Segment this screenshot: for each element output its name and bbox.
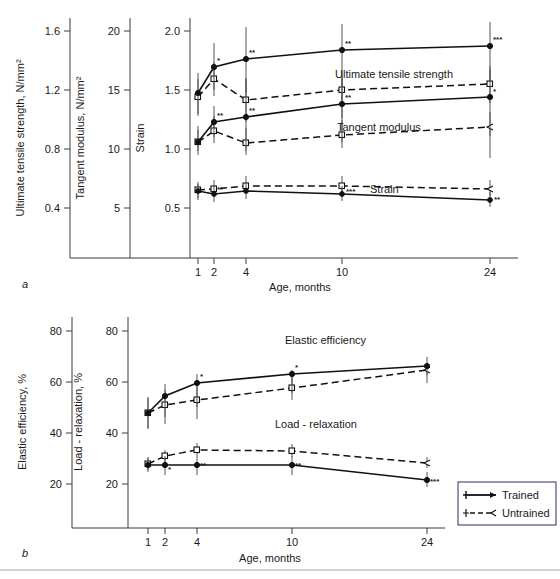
significance-marker: ** — [295, 461, 302, 470]
data-point — [289, 448, 295, 454]
xtick-label: 2 — [211, 266, 217, 278]
ytick-label: 1.5 — [165, 84, 180, 96]
ytick-label: 20 — [50, 478, 62, 490]
xtick-label: 2 — [162, 536, 168, 548]
ytick-label: 60 — [50, 376, 62, 388]
significance-marker: ** — [217, 111, 224, 120]
ytick-label: 40 — [106, 427, 118, 439]
panel-letter-a: a — [22, 278, 28, 290]
data-point — [424, 363, 429, 368]
data-point — [339, 101, 344, 106]
ytick-label: 80 — [106, 325, 118, 337]
significance-marker: *** — [346, 187, 356, 196]
xtick-label: 24 — [421, 536, 433, 548]
significance-marker: *** — [493, 35, 503, 44]
xtick-label: 10 — [286, 536, 298, 548]
significance-marker: ** — [345, 93, 352, 102]
data-point — [194, 380, 199, 385]
ytick-label: 40 — [50, 427, 62, 439]
ytick-label: 20 — [108, 25, 120, 37]
data-point — [196, 189, 201, 194]
significance-marker: ** — [217, 185, 224, 194]
xtick-label: 4 — [194, 536, 200, 548]
yaxis-title-load-relaxation: Load - relaxation, % — [72, 373, 84, 471]
data-point — [211, 119, 216, 124]
xaxis-title: Age, months — [239, 552, 301, 564]
data-point — [340, 192, 345, 197]
ytick-label: 1.0 — [165, 143, 180, 155]
ytick-label: 1.2 — [45, 84, 60, 96]
significance-marker: ** — [200, 461, 207, 470]
xtick-label: 10 — [336, 266, 348, 278]
data-point — [145, 410, 150, 415]
ytick-label: 0.5 — [165, 202, 180, 214]
series-label-ultimate-tensile-strength: Ultimate tensile strength — [335, 68, 453, 80]
xtick-label: 1 — [195, 266, 201, 278]
legend-label-untrained: Untrained — [502, 507, 550, 519]
data-point — [194, 447, 200, 453]
significance-marker: *** — [430, 477, 440, 486]
legend[interactable]: Trained Untrained — [458, 482, 556, 525]
xtick-label: 1 — [145, 536, 151, 548]
significance-marker: ** — [249, 106, 256, 115]
data-point — [194, 462, 199, 467]
panel-letter-b: b — [22, 547, 28, 559]
figure-svg: 1.6 1.2 0.8 0.4 Ultimate tensile strengt… — [0, 0, 560, 579]
data-point — [243, 114, 248, 119]
ytick-label: 80 — [50, 325, 62, 337]
data-point — [289, 462, 294, 467]
ytick-label: 1.6 — [45, 25, 60, 37]
figure-container: 1.6 1.2 0.8 0.4 Ultimate tensile strengt… — [0, 0, 560, 579]
data-point — [487, 94, 492, 99]
data-point — [243, 56, 248, 61]
xaxis-title: Age, months — [269, 281, 331, 293]
yaxis-title-tangent-modulus: Tangent modulus, N/mm² — [74, 76, 86, 199]
series-label-strain: Strain — [370, 183, 399, 195]
data-point — [211, 64, 216, 69]
ytick-label: 60 — [106, 376, 118, 388]
data-point — [162, 462, 167, 467]
ytick-label: 0.4 — [45, 202, 60, 214]
data-point — [487, 43, 492, 48]
xtick-label: 24 — [484, 266, 496, 278]
series-label-tangent-modulus: Tangent modulus — [337, 121, 421, 133]
data-point — [289, 371, 294, 376]
ytick-label: 10 — [108, 143, 120, 155]
data-point — [339, 47, 344, 52]
significance-marker: ** — [494, 195, 501, 204]
data-point — [162, 393, 167, 398]
ytick-label: 0.8 — [45, 143, 60, 155]
xtick-label: 4 — [243, 266, 249, 278]
legend-label-trained: Trained — [502, 489, 539, 501]
data-point — [145, 462, 150, 467]
ytick-label: 5 — [114, 202, 120, 214]
data-point — [195, 90, 200, 95]
data-point — [212, 192, 217, 197]
series-label-elastic-efficiency: Elastic efficiency — [285, 334, 367, 346]
significance-marker: ** — [249, 48, 256, 57]
data-point — [424, 477, 429, 482]
data-point — [195, 139, 200, 144]
ytick-label: 20 — [106, 478, 118, 490]
series-label-load-relaxation: Load - relaxation — [275, 418, 357, 430]
yaxis-title-strain: Strain — [134, 124, 146, 153]
yaxis-title-elastic-efficiency: Elastic efficiency, % — [16, 374, 28, 470]
yaxis-title-ultimate-tensile-strength: Ultimate tensile strength, N/mm² — [14, 59, 26, 216]
significance-marker: ** — [345, 39, 352, 48]
data-point — [488, 198, 493, 203]
ytick-label: 15 — [108, 84, 120, 96]
data-point — [244, 189, 249, 194]
ytick-label: 2.0 — [165, 25, 180, 37]
